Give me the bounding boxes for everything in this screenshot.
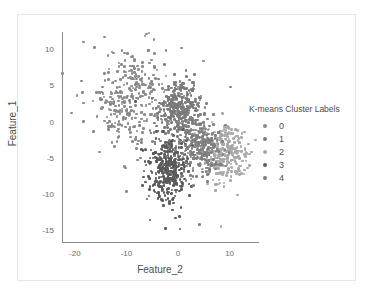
scatter-point [206, 161, 209, 164]
scatter-point [218, 179, 221, 182]
scatter-point [153, 52, 156, 55]
scatter-point [203, 139, 206, 142]
legend-item-label: 1 [279, 134, 284, 144]
scatter-point [197, 116, 200, 119]
scatter-point [118, 86, 121, 89]
scatter-point [111, 141, 114, 144]
scatter-point [112, 52, 115, 55]
scatter-point [163, 126, 166, 129]
scatter-point [117, 128, 120, 131]
scatter-point [161, 121, 164, 124]
scatter-point [136, 143, 139, 146]
scatter-point [164, 151, 167, 154]
scatter-point [190, 178, 193, 181]
scatter-point [191, 147, 194, 150]
scatter-point [243, 131, 246, 134]
y-tick-label: -5 [28, 155, 54, 163]
scatter-point [193, 139, 196, 142]
scatter-point [215, 189, 218, 192]
scatter-point [131, 140, 134, 143]
scatter-point [129, 131, 132, 134]
scatter-point [189, 174, 192, 177]
scatter-point [119, 91, 122, 94]
scatter-point [140, 141, 143, 144]
legend-item-1[interactable]: 1 [249, 132, 357, 145]
scatter-point [191, 81, 194, 84]
scatter-point [171, 180, 174, 183]
scatter-point [229, 179, 232, 182]
x-tick-label: 0 [163, 250, 193, 258]
scatter-point [201, 168, 204, 171]
scatter-point [185, 69, 188, 72]
scatter-point [149, 185, 152, 188]
scatter-point [135, 113, 138, 116]
scatter-point [156, 116, 159, 119]
scatter-point [163, 91, 166, 94]
scatter-point [92, 100, 95, 103]
scatter-point [217, 150, 220, 153]
scatter-point [207, 133, 210, 136]
scatter-point [234, 159, 237, 162]
scatter-point [116, 115, 119, 118]
scatter-point [113, 109, 116, 112]
legend-item-label: 3 [279, 160, 284, 170]
legend-item-2[interactable]: 2 [249, 145, 357, 158]
scatter-point [165, 75, 168, 78]
scatter-point [230, 175, 233, 178]
scatter-point [163, 168, 166, 171]
scatter-point [153, 38, 156, 41]
scatter-point [138, 121, 141, 124]
scatter-point [144, 149, 147, 152]
scatter-point [145, 104, 148, 107]
scatter-point [123, 165, 126, 168]
scatter-point [123, 84, 126, 87]
scatter-point [110, 113, 113, 116]
scatter-point [172, 202, 175, 205]
scatter-point [187, 125, 190, 128]
scatter-point [170, 192, 173, 195]
scatter-point [101, 106, 104, 109]
scatter-point [203, 114, 206, 117]
scatter-point [156, 69, 159, 72]
scatter-point [153, 115, 156, 118]
scatter-point [136, 159, 139, 162]
scatter-point [157, 184, 160, 187]
scatter-point [158, 111, 161, 114]
legend-item-0[interactable]: 0 [249, 119, 357, 132]
scatter-point [141, 184, 144, 187]
scatter-point [206, 118, 209, 121]
scatter-point [203, 158, 206, 161]
scatter-point [124, 117, 127, 120]
scatter-point [186, 165, 189, 168]
scatter-point [184, 124, 187, 127]
scatter-point [223, 160, 226, 163]
scatter-point [187, 112, 190, 115]
scatter-point [188, 194, 191, 197]
scatter-point [222, 171, 225, 174]
scatter-point [122, 76, 125, 79]
scatter-point [118, 104, 121, 107]
scatter-point [218, 163, 221, 166]
scatter-point [149, 92, 152, 95]
plot-data-area [62, 32, 258, 242]
scatter-point [222, 144, 225, 147]
legend-marker-icon [263, 137, 267, 141]
scatter-point [133, 67, 136, 70]
scatter-point [148, 77, 151, 80]
scatter-point [173, 140, 176, 143]
scatter-point [120, 63, 123, 66]
scatter-point [134, 117, 137, 120]
scatter-point [196, 148, 199, 151]
scatter-point [217, 143, 220, 146]
legend-item-4[interactable]: 4 [249, 171, 357, 184]
y-tick-label: -15 [28, 227, 54, 235]
scatter-point [121, 124, 124, 127]
legend-item-3[interactable]: 3 [249, 158, 357, 171]
scatter-point [167, 108, 170, 111]
scatter-point [117, 100, 120, 103]
scatter-point [141, 77, 144, 80]
scatter-point [134, 100, 137, 103]
scatter-point [212, 123, 215, 126]
scatter-point [184, 101, 187, 104]
scatter-point [157, 130, 160, 133]
